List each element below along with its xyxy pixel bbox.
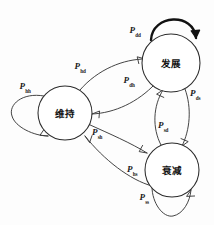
edge-ds [181, 89, 189, 146]
edge-dd-arrowhead [191, 30, 199, 38]
prob-symbol-p-ss: P [139, 192, 145, 202]
prob-symbol-p-hd: P [75, 61, 81, 71]
probability-label-p-ss: Pss [139, 193, 148, 204]
node-label-weichi: 维持 [55, 109, 76, 119]
edge-sh-path [85, 136, 152, 186]
node-label-shuaijian: 衰减 [162, 166, 183, 176]
probability-label-p-sd: Psd [158, 121, 168, 132]
edge-sd [155, 90, 164, 145]
probability-label-p-ds: Pds [190, 89, 200, 100]
prob-symbol-p-hh: P [20, 81, 26, 91]
diagram-canvas [0, 0, 214, 225]
prob-subscript-p-ss: ss [145, 199, 149, 205]
probability-label-p-dd: Pdd [130, 26, 141, 37]
prob-subscript-p-sh: sh [98, 134, 103, 140]
edge-hd [80, 57, 145, 90]
edge-hd-path [80, 59, 145, 90]
edge-dh-path [92, 84, 155, 114]
prob-symbol-p-hs: P [127, 164, 133, 174]
node-label-fazhan: 发展 [161, 59, 182, 69]
prob-symbol-p-dh: P [124, 75, 130, 85]
edge-sd-path [155, 90, 163, 145]
probability-label-p-hd: Phd [75, 62, 86, 73]
prob-subscript-p-ds: ds [196, 95, 201, 101]
prob-subscript-p-sd: sd [164, 127, 169, 133]
prob-symbol-p-dd: P [130, 25, 136, 35]
state-transition-diagram: 发展 维持 衰减 Pdd Phd Pdh Phh Pds Psd Psh Phs… [0, 0, 214, 225]
prob-symbol-p-ds: P [190, 88, 196, 98]
prob-subscript-p-hh: hh [25, 88, 30, 94]
edge-ds-path [182, 89, 189, 146]
prob-symbol-p-sh: P [92, 127, 98, 137]
probability-label-p-hh: Phh [20, 82, 31, 93]
probability-label-p-hs: Phs [127, 165, 137, 176]
prob-subscript-p-dd: dd [135, 32, 140, 38]
probability-label-p-sh: Psh [92, 128, 102, 139]
edge-sh [85, 136, 152, 186]
probability-label-p-dh: Pdh [124, 76, 135, 87]
prob-subscript-p-hs: hs [133, 171, 138, 177]
prob-subscript-p-dh: dh [129, 82, 134, 88]
prob-symbol-p-sd: P [158, 120, 164, 130]
prob-subscript-p-hd: hd [80, 68, 85, 74]
edge-dh [92, 84, 155, 118]
